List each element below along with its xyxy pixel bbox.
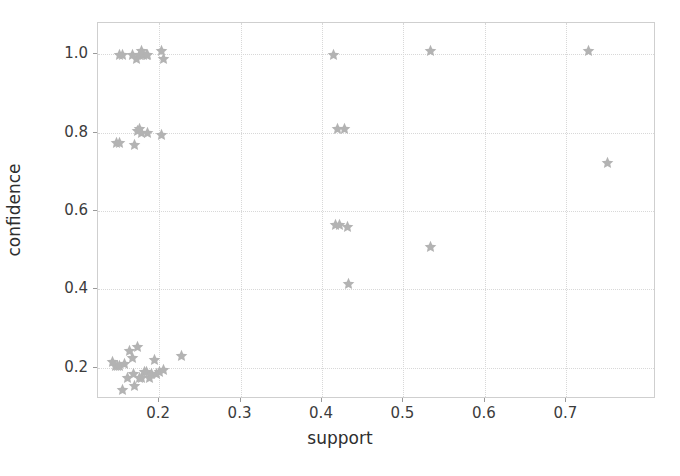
x-tick-mark: [565, 398, 566, 402]
gridline-vertical: [241, 23, 242, 397]
data-point-marker: [143, 371, 156, 384]
data-point-marker: [126, 351, 139, 364]
data-point-marker: [601, 156, 614, 169]
x-tick-label: 0.5: [391, 404, 415, 422]
data-point-marker: [123, 344, 136, 357]
gridline-horizontal: [98, 289, 654, 290]
gridline-horizontal: [98, 133, 654, 134]
y-tick-mark: [93, 288, 97, 289]
data-point-marker: [113, 136, 126, 149]
scatter-chart-figure: 0.20.30.40.50.60.7 0.20.40.60.81.0 suppo…: [0, 0, 680, 476]
data-point-marker: [150, 367, 163, 380]
data-point-marker: [110, 136, 123, 149]
gridline-vertical: [322, 23, 323, 397]
x-tick-label: 0.4: [309, 404, 333, 422]
x-tick-mark: [321, 398, 322, 402]
data-point-marker: [333, 218, 346, 231]
y-tick-label: 0.2: [64, 358, 88, 376]
data-point-marker: [145, 367, 158, 380]
data-point-marker: [175, 349, 188, 362]
y-axis-label: confidence: [4, 163, 24, 256]
x-tick-mark: [158, 398, 159, 402]
x-tick-mark: [484, 398, 485, 402]
data-point-marker: [128, 379, 141, 392]
gridline-vertical: [485, 23, 486, 397]
data-point-marker: [111, 359, 124, 372]
y-tick-mark: [93, 132, 97, 133]
gridline-vertical: [403, 23, 404, 397]
gridline-horizontal: [98, 54, 654, 55]
data-point-marker: [106, 355, 119, 368]
data-point-marker: [121, 371, 134, 384]
x-tick-label: 0.6: [472, 404, 496, 422]
y-tick-label: 1.0: [64, 44, 88, 62]
data-point-marker: [131, 124, 144, 137]
x-tick-label: 0.7: [553, 404, 577, 422]
data-point-marker: [329, 218, 342, 231]
y-tick-mark: [93, 367, 97, 368]
data-point-marker: [128, 138, 141, 151]
x-axis-label: support: [0, 428, 680, 448]
data-point-marker: [109, 359, 122, 372]
y-tick-mark: [93, 53, 97, 54]
data-point-marker: [155, 128, 168, 141]
data-point-marker: [131, 340, 144, 353]
data-point-marker: [113, 359, 126, 372]
plot-area: [97, 22, 655, 398]
gridline-vertical: [566, 23, 567, 397]
data-point-marker: [133, 371, 146, 384]
data-point-marker: [127, 367, 140, 380]
x-tick-mark: [240, 398, 241, 402]
gridline-horizontal: [98, 211, 654, 212]
x-tick-label: 0.2: [146, 404, 170, 422]
x-tick-label: 0.3: [228, 404, 252, 422]
x-tick-mark: [402, 398, 403, 402]
y-tick-mark: [93, 210, 97, 211]
data-point-marker: [116, 383, 129, 396]
gridline-vertical: [159, 23, 160, 397]
gridline-horizontal: [98, 368, 654, 369]
y-tick-label: 0.8: [64, 123, 88, 141]
y-tick-label: 0.6: [64, 201, 88, 219]
data-point-marker: [341, 220, 354, 233]
data-point-marker: [342, 277, 355, 290]
data-point-marker: [424, 240, 437, 253]
data-point-marker: [135, 371, 148, 384]
y-tick-label: 0.4: [64, 279, 88, 297]
